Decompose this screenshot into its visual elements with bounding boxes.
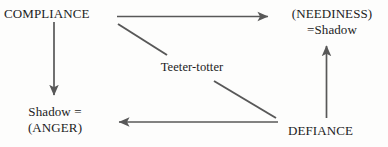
- edge-teeter-diagonal-lower: [214, 81, 276, 118]
- node-shadow-anger: Shadow = (ANGER): [2, 104, 108, 136]
- node-teeter-totter: Teeter-totter: [140, 59, 244, 75]
- node-defiance-line-1: DEFIANCE: [288, 123, 353, 139]
- node-neediness-line-1: (NEEDINESS): [279, 6, 385, 22]
- node-neediness: (NEEDINESS) =Shadow: [279, 6, 385, 38]
- node-defiance: DEFIANCE: [288, 123, 353, 139]
- node-compliance-line-1: COMPLIANCE: [4, 6, 90, 22]
- node-shadow-anger-line-2: (ANGER): [2, 120, 108, 136]
- edge-teeter-diagonal-upper: [118, 24, 167, 55]
- teeter-totter-diagram: COMPLIANCE (NEEDINESS) =Shadow Shadow = …: [0, 0, 388, 147]
- node-compliance: COMPLIANCE: [4, 6, 90, 22]
- node-shadow-anger-line-1: Shadow =: [2, 104, 108, 120]
- node-teeter-totter-line-1: Teeter-totter: [140, 59, 244, 75]
- node-neediness-line-2: =Shadow: [279, 22, 385, 38]
